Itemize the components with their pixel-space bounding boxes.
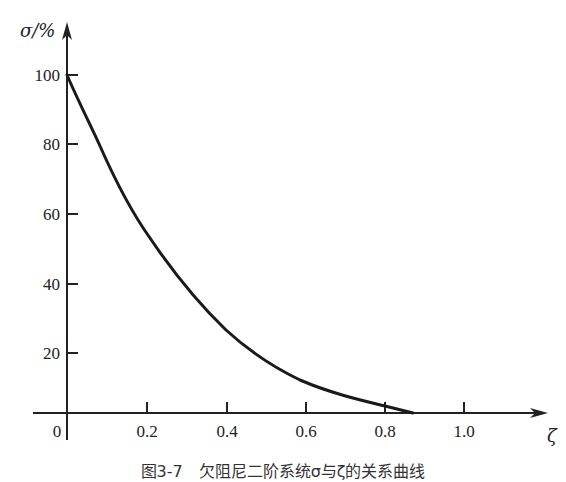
x-tick-label: 0.4 xyxy=(216,422,238,441)
y-tick-label: 100 xyxy=(35,66,61,85)
y-axis-label: σ/% xyxy=(20,20,55,41)
x-tick-label: 0.6 xyxy=(295,422,316,441)
y-tick-label: 80 xyxy=(43,135,60,154)
figure-caption: 图3-7 欠阻尼二阶系统σ与ζ的关系曲线 xyxy=(0,458,566,482)
y-ticks xyxy=(67,75,78,353)
x-ticks xyxy=(147,402,464,413)
y-tick-label: 20 xyxy=(43,344,60,363)
x-axis-label: ζ xyxy=(547,425,558,446)
x-tick-label: 1.0 xyxy=(453,422,474,441)
y-tick-label: 60 xyxy=(43,205,60,224)
y-tick-label: 40 xyxy=(43,275,60,294)
overshoot-curve xyxy=(67,75,413,413)
x-tick-label: 0.2 xyxy=(136,422,157,441)
x-tick-label: 0.8 xyxy=(374,422,395,441)
origin-label: 0 xyxy=(53,422,62,441)
